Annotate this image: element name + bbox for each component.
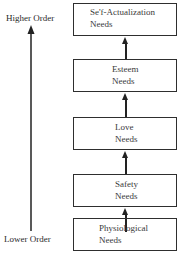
connector-arrow-shaft (125, 98, 127, 117)
esteem-needs-box: Esteem Needs (73, 59, 177, 92)
arrow-head-icon (122, 37, 128, 44)
arrow-head-icon (122, 93, 128, 100)
connector-arrow-shaft (125, 42, 127, 59)
arrow-head-icon (122, 208, 128, 215)
box-text-line2: Needs (99, 235, 122, 246)
box-text-line2: Needs (90, 19, 113, 30)
safety-needs-box: Safety Needs (73, 174, 177, 207)
self-actualization-needs-box: Se'f-Actualization Needs (73, 3, 177, 36)
higher-order-label: Higher Order (6, 13, 54, 23)
box-text-line2: Needs (115, 134, 138, 145)
arrow-head-icon (122, 151, 128, 158)
lower-order-label: Lower Order (4, 234, 51, 244)
box-text-line2: Needs (112, 76, 135, 87)
box-text-line1: Physiological (99, 223, 148, 234)
love-needs-box: Love Needs (73, 117, 177, 150)
connector-arrow-shaft (125, 156, 127, 174)
box-text-line1: Safety (115, 179, 138, 190)
physiological-needs-box: Physiological Needs (73, 218, 177, 251)
box-text-line1: Love (115, 122, 134, 133)
box-text-line1: Esteem (112, 64, 139, 75)
box-text-line2: Needs (115, 191, 138, 202)
box-text-line1: Se'f-Actualization (90, 7, 155, 18)
